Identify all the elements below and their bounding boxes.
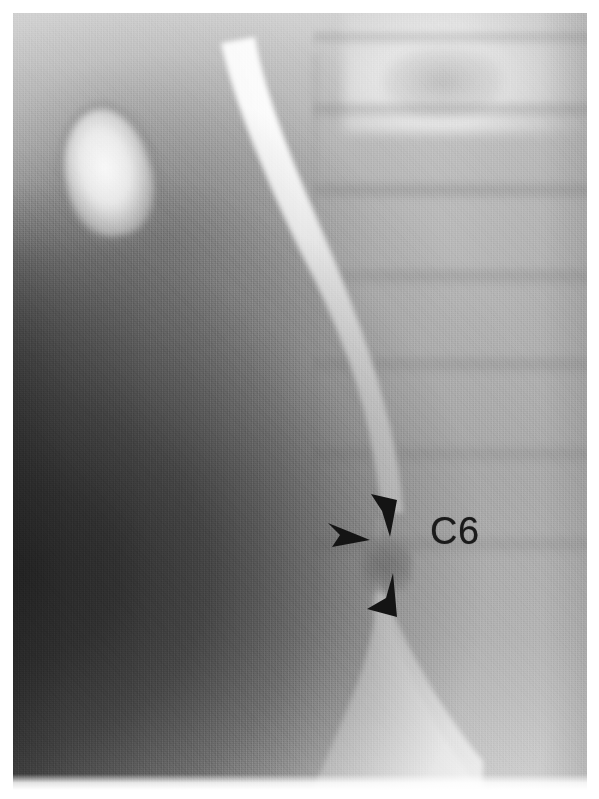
- radiograph-figure: C6: [0, 0, 599, 799]
- radiograph-image: [13, 13, 587, 790]
- middle-arrowhead-icon: [326, 520, 372, 550]
- vertebral-level-label: C6: [430, 512, 480, 550]
- lower-arrowhead-icon: [364, 571, 400, 621]
